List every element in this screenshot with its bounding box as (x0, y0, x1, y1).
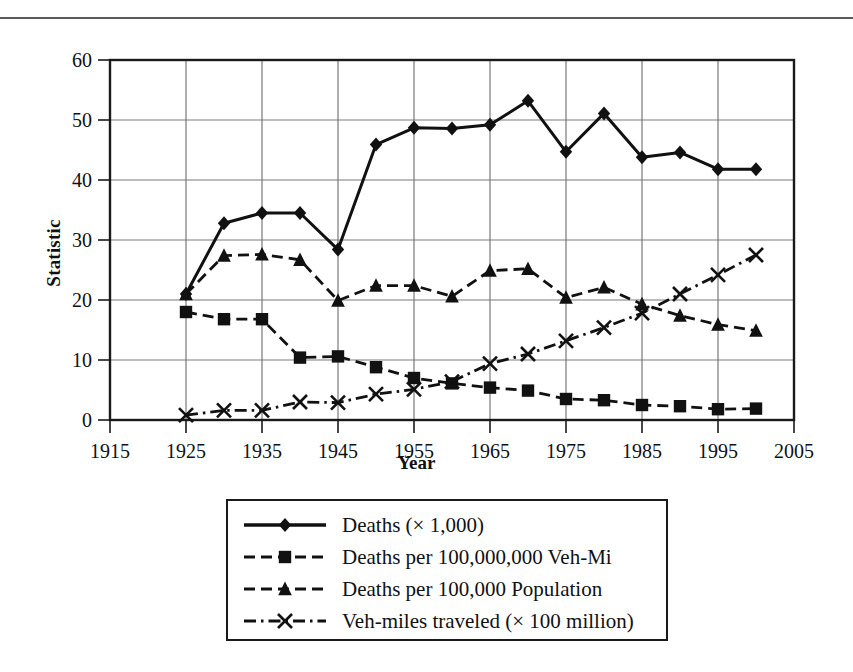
data-point-diamond (712, 162, 724, 176)
legend-key-glyph (242, 543, 328, 571)
line-chart-plot: 0102030405060191519251935194519551965197… (0, 30, 853, 480)
data-point-square (560, 393, 572, 405)
y-axis-title: Statistic (43, 193, 65, 313)
data-point-diamond (408, 121, 420, 135)
data-point-cross (673, 287, 687, 301)
data-point-square (332, 350, 344, 362)
legend-key-glyph (242, 607, 328, 635)
data-point-square (522, 384, 534, 396)
legend-item: Deaths per 100,000 Population (228, 573, 666, 605)
data-point-square (750, 402, 762, 414)
data-point-square (712, 403, 724, 415)
y-tick-label: 50 (72, 109, 92, 131)
series-4 (179, 248, 763, 422)
data-point-diamond (446, 121, 458, 135)
y-tick-label: 0 (82, 409, 92, 431)
data-point-cross (597, 321, 611, 335)
legend-item-label: Deaths per 100,000 Population (342, 579, 602, 600)
data-point-square (256, 313, 268, 325)
square-marker (242, 543, 328, 571)
data-point-diamond (256, 206, 268, 220)
triangle-marker (242, 575, 328, 603)
legend-key-glyph (242, 575, 328, 603)
y-tick-label: 10 (72, 349, 92, 371)
data-point-square (598, 394, 610, 406)
series-line (186, 254, 756, 330)
chart-legend: Deaths (× 1,000)Deaths per 100,000,000 V… (226, 499, 668, 641)
series-1 (180, 94, 762, 301)
y-tick-label: 20 (72, 289, 92, 311)
data-point-triangle (597, 280, 611, 294)
chart-figure: 0102030405060191519251935194519551965197… (0, 30, 853, 480)
legend-item-label: Veh-miles traveled (× 100 million) (342, 611, 634, 632)
data-point-cross (293, 395, 307, 409)
data-point-diamond (218, 216, 230, 230)
y-tick-label: 60 (72, 49, 92, 71)
legend-key-glyph (242, 511, 328, 539)
data-point-square (218, 313, 230, 325)
series-line (186, 101, 756, 294)
legend-item: Veh-miles traveled (× 100 million) (228, 605, 666, 637)
series-line (186, 255, 756, 415)
legend-item: Deaths per 100,000,000 Veh-Mi (228, 541, 666, 573)
data-point-square (636, 399, 648, 411)
legend-item-label: Deaths per 100,000,000 Veh-Mi (342, 547, 612, 568)
y-tick-label: 40 (72, 169, 92, 191)
y-tick-label: 30 (72, 229, 92, 251)
data-point-square (674, 400, 686, 412)
data-point-square (408, 372, 420, 384)
diamond-marker (242, 511, 328, 539)
data-point-diamond (750, 162, 762, 176)
x-axis-title: Year (398, 452, 436, 474)
data-point-diamond (370, 138, 382, 152)
page-header-rule (0, 17, 853, 19)
data-point-square (370, 361, 382, 373)
legend-item: Deaths (× 1,000) (228, 509, 666, 541)
data-point-diamond (279, 518, 291, 532)
data-point-diamond (674, 145, 686, 159)
data-point-cross (749, 248, 763, 262)
data-point-square (180, 306, 192, 318)
cross-marker (242, 607, 328, 635)
data-point-square (279, 551, 291, 563)
legend-item-label: Deaths (× 1,000) (342, 515, 484, 536)
data-point-square (294, 351, 306, 363)
page-root: 0102030405060191519251935194519551965197… (0, 0, 853, 672)
data-point-triangle (483, 263, 497, 277)
x-axis-title-wrap: Year (0, 452, 853, 474)
data-point-square (484, 381, 496, 393)
